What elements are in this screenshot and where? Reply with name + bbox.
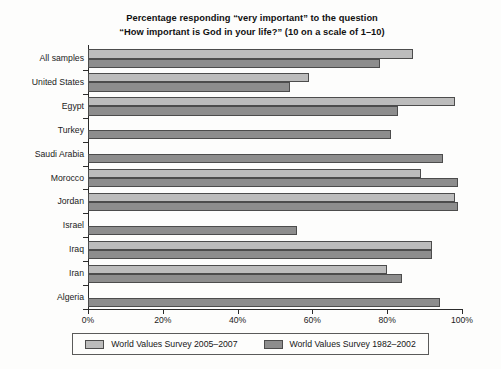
y-tick: [83, 70, 88, 71]
y-tick: [83, 285, 88, 286]
x-tick-0: [88, 309, 89, 314]
x-tick-100: [462, 309, 463, 314]
x-tick-label: 0%: [82, 315, 94, 325]
legend-label: World Values Survey 1982–2002: [290, 339, 416, 349]
y-tick: [83, 94, 88, 95]
x-tick-label: 60%: [304, 315, 321, 325]
bar-jordan-series-2: [88, 202, 458, 211]
bar-jordan-series-1: [88, 193, 455, 202]
bar-iran-series-2: [88, 274, 402, 283]
y-tick: [83, 142, 88, 143]
chart-title-line-2: “How important is God in your life?” (10…: [62, 26, 442, 40]
category-label-turkey: Turkey: [4, 125, 84, 135]
x-tick-label: 80%: [379, 315, 396, 325]
bar-all-samples-series-1: [88, 49, 413, 58]
legend-label: World Values Survey 2005–2007: [111, 339, 237, 349]
y-tick: [83, 261, 88, 262]
x-tick-label: 20%: [154, 315, 171, 325]
chart-title: Percentage responding “very important” t…: [62, 12, 442, 39]
legend-swatch-dark: [264, 340, 283, 349]
y-tick: [83, 166, 88, 167]
chart-figure: Percentage responding “very important” t…: [0, 0, 501, 369]
x-tick-label: 40%: [229, 315, 246, 325]
category-label-all-samples: All samples: [4, 53, 84, 63]
bar-turkey-series-2: [88, 130, 391, 139]
x-tick-80: [387, 309, 388, 314]
x-tick-20: [163, 309, 164, 314]
y-tick: [83, 237, 88, 238]
bar-morocco-series-2: [88, 178, 458, 187]
chart-title-line-1: Percentage responding “very important” t…: [62, 12, 442, 26]
legend-swatch-light: [85, 340, 104, 349]
bar-iran-series-1: [88, 265, 387, 274]
legend-entry-1: World Values Survey 2005–2007: [85, 339, 237, 349]
bar-iraq-series-2: [88, 250, 432, 259]
category-label-iraq: Iraq: [4, 244, 84, 254]
bar-morocco-series-1: [88, 169, 421, 178]
bar-iraq-series-1: [88, 241, 432, 250]
bar-egypt-series-1: [88, 97, 455, 106]
chart-legend: World Values Survey 2005–2007World Value…: [72, 333, 429, 355]
bar-all-samples-series-2: [88, 59, 380, 68]
bar-algeria-series-2: [88, 298, 440, 307]
bar-united-states-series-1: [88, 73, 309, 82]
x-axis-line: [88, 309, 463, 310]
x-tick-40: [238, 309, 239, 314]
y-tick: [83, 189, 88, 190]
y-tick: [83, 213, 88, 214]
bar-united-states-series-2: [88, 82, 290, 91]
y-tick: [83, 118, 88, 119]
y-tick: [83, 309, 88, 310]
x-tick-60: [312, 309, 313, 314]
category-label-saudi-arabia: Saudi Arabia: [4, 149, 84, 159]
bar-saudi-arabia-series-2: [88, 154, 443, 163]
legend-entry-2: World Values Survey 1982–2002: [264, 339, 416, 349]
bar-egypt-series-2: [88, 106, 398, 115]
category-label-algeria: Algeria: [4, 292, 84, 302]
category-label-israel: Israel: [4, 220, 84, 230]
y-axis-category-labels: All samplesUnited StatesEgyptTurkeySaudi…: [2, 0, 84, 369]
bar-israel-series-2: [88, 226, 297, 235]
category-label-united-states: United States: [4, 77, 84, 87]
category-label-iran: Iran: [4, 268, 84, 278]
category-label-egypt: Egypt: [4, 101, 84, 111]
category-label-jordan: Jordan: [4, 196, 84, 206]
x-tick-label: 100%: [451, 315, 473, 325]
category-label-morocco: Morocco: [4, 173, 84, 183]
